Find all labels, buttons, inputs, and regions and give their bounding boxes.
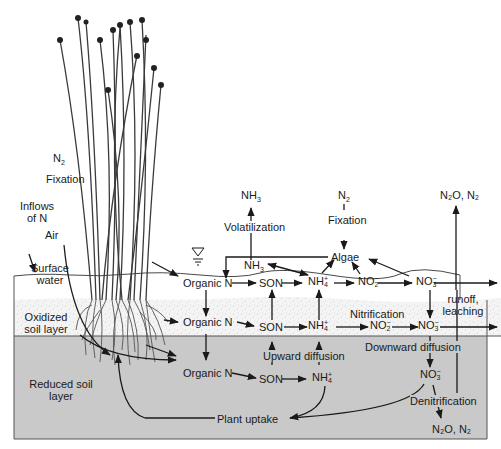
denitrification-label: Denitrification: [410, 395, 477, 407]
no3-water-label: NO−3: [416, 275, 437, 288]
runoff-label: runoff,leaching: [439, 293, 487, 317]
reduced-soil-label: Reduced soillayer: [26, 378, 96, 402]
fixation-left-label: Fixation: [46, 173, 85, 185]
son-water-label: SON: [259, 277, 283, 289]
upward-diffusion-label: Upward diffusion: [263, 350, 345, 362]
no3-oxidized-label: NO−3: [418, 319, 439, 332]
air-label: Air: [45, 229, 58, 241]
organic-n-water-label: Organic N: [183, 277, 233, 289]
n2o-top-label: N₂O, N₂: [440, 189, 479, 201]
plant-uptake-label: Plant uptake: [217, 413, 278, 425]
n2-mid-label: N2: [338, 189, 350, 206]
downward-diffusion-label: Downward diffusion: [365, 341, 461, 353]
n2-left-label: N2: [53, 152, 65, 169]
no2-oxidized-label: NO−2: [370, 319, 391, 332]
plant-icon: [60, 18, 161, 300]
no2-water-label: NO−2: [358, 275, 379, 288]
nh3-water-label: NH3: [244, 259, 264, 276]
n2o-bottom-label: N₂O, N₂: [432, 423, 471, 435]
plant-flower-heads: [57, 15, 164, 93]
oxidized-soil-label: Oxidizedsoil layer: [22, 311, 70, 335]
son-oxidized-label: SON: [259, 321, 283, 333]
nh4-water-label: NH+4: [308, 275, 328, 288]
nh4-oxidized-label: NH+4: [308, 319, 328, 332]
organic-n-oxidized-label: Organic N: [183, 316, 233, 328]
inflows-label: Inflowsof N: [17, 200, 57, 224]
water-table-icon: [192, 248, 204, 265]
son-reduced-label: SON: [259, 373, 283, 385]
no3-reduced-label: NO−3: [420, 368, 441, 381]
nh4-reduced-label: NH+4: [312, 371, 332, 384]
surface-water-layer: [14, 270, 460, 300]
organic-n-reduced-label: Organic N: [183, 367, 233, 379]
algae-label: Algae: [331, 251, 359, 263]
volatilization-label: Volatilization: [224, 221, 285, 233]
nh3-top-label: NH3: [241, 189, 261, 206]
fixation-mid-label: Fixation: [328, 214, 367, 226]
surface-water-label: Surfacewater: [28, 262, 72, 286]
